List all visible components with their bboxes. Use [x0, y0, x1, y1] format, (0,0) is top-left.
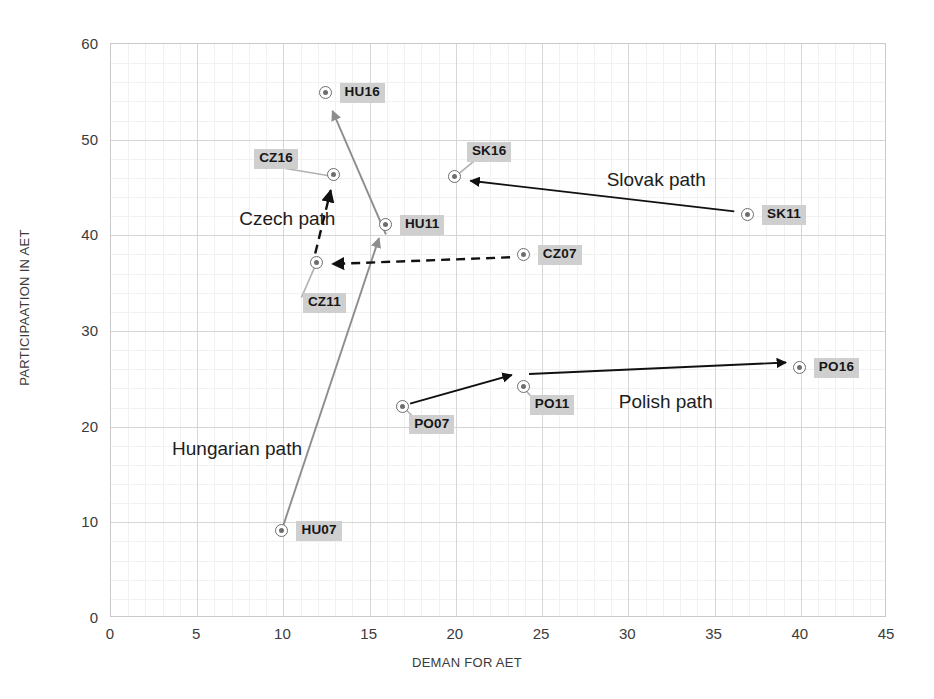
gridline-minor-vertical	[404, 44, 405, 616]
gridline-minor-vertical	[249, 44, 250, 616]
data-point-label-po07: PO07	[409, 415, 454, 435]
plot-area	[110, 43, 886, 617]
gridline-minor-horizontal	[111, 312, 885, 313]
gridline-minor-vertical	[232, 44, 233, 616]
gridline-minor-vertical	[732, 44, 733, 616]
annotation-polish-path: Polish path	[619, 391, 713, 413]
gridline-minor-horizontal	[111, 197, 885, 198]
gridline-vertical	[715, 44, 716, 616]
x-axis-tick-label: 10	[274, 625, 291, 642]
gridline-minor-vertical	[784, 44, 785, 616]
x-axis-tick-label: 15	[360, 625, 377, 642]
data-point-marker-po07[interactable]	[396, 400, 409, 413]
gridline-minor-vertical	[508, 44, 509, 616]
data-point-label-hu07: HU07	[296, 521, 341, 541]
data-point-marker-po16[interactable]	[793, 361, 806, 374]
gridline-minor-vertical	[749, 44, 750, 616]
gridline-minor-horizontal	[111, 369, 885, 370]
gridline-vertical	[370, 44, 371, 616]
gridline-minor-horizontal	[111, 465, 885, 466]
gridline-minor-vertical	[559, 44, 560, 616]
gridline-vertical	[197, 44, 198, 616]
x-axis-tick-label: 40	[791, 625, 808, 642]
gridline-minor-vertical	[611, 44, 612, 616]
x-axis-tick-label: 5	[192, 625, 200, 642]
data-point-label-cz16: CZ16	[254, 149, 298, 169]
gridline-minor-horizontal	[111, 178, 885, 179]
x-axis-tick-label: 25	[533, 625, 550, 642]
gridline-minor-vertical	[352, 44, 353, 616]
gridline-minor-horizontal	[111, 503, 885, 504]
gridline-minor-horizontal	[111, 63, 885, 64]
y-axis-tick-label: 30	[0, 322, 98, 339]
data-point-label-hu16: HU16	[340, 83, 385, 103]
gridline-minor-horizontal	[111, 350, 885, 351]
gridline-vertical	[628, 44, 629, 616]
gridline-horizontal	[111, 140, 885, 141]
gridline-vertical	[801, 44, 802, 616]
gridline-minor-horizontal	[111, 541, 885, 542]
gridline-minor-vertical	[525, 44, 526, 616]
x-axis-tick-label: 0	[106, 625, 114, 642]
gridline-minor-horizontal	[111, 599, 885, 600]
x-axis-tick-label: 20	[447, 625, 464, 642]
gridline-minor-vertical	[766, 44, 767, 616]
gridline-minor-vertical	[663, 44, 664, 616]
data-point-marker-hu16[interactable]	[319, 86, 332, 99]
annotation-czech-path: Czech path	[239, 208, 335, 230]
gridline-minor-vertical	[214, 44, 215, 616]
data-point-marker-cz11[interactable]	[310, 256, 323, 269]
data-point-label-cz07: CZ07	[538, 245, 582, 265]
gridline-minor-vertical	[594, 44, 595, 616]
gridline-horizontal	[111, 235, 885, 236]
y-axis-tick-label: 10	[0, 513, 98, 530]
y-axis-tick-label: 50	[0, 130, 98, 147]
y-axis-title: PARTICIPAATION IN AET	[17, 188, 32, 428]
gridline-minor-vertical	[835, 44, 836, 616]
y-axis-tick-label: 40	[0, 226, 98, 243]
gridline-minor-horizontal	[111, 82, 885, 83]
y-axis-tick-label: 20	[0, 417, 98, 434]
gridline-minor-horizontal	[111, 388, 885, 389]
gridline-minor-vertical	[266, 44, 267, 616]
gridline-minor-vertical	[577, 44, 578, 616]
gridline-vertical	[542, 44, 543, 616]
gridline-minor-vertical	[680, 44, 681, 616]
gridline-minor-vertical	[473, 44, 474, 616]
chart-canvas: 0510152025303540450102030405060HU07HU11H…	[0, 0, 934, 699]
gridline-minor-vertical	[421, 44, 422, 616]
data-point-label-hu11: HU11	[400, 215, 445, 235]
gridline-vertical	[456, 44, 457, 616]
data-point-label-sk11: SK11	[762, 205, 806, 225]
gridline-minor-vertical	[180, 44, 181, 616]
data-point-marker-sk16[interactable]	[448, 170, 461, 183]
gridline-minor-vertical	[387, 44, 388, 616]
gridline-minor-vertical	[853, 44, 854, 616]
gridline-minor-horizontal	[111, 101, 885, 102]
x-axis-tick-label: 35	[705, 625, 722, 642]
gridline-horizontal	[111, 331, 885, 332]
annotation-slovak-path: Slovak path	[607, 169, 706, 191]
gridline-minor-vertical	[646, 44, 647, 616]
gridline-minor-vertical	[163, 44, 164, 616]
x-axis-tick-label: 45	[878, 625, 895, 642]
gridline-minor-vertical	[145, 44, 146, 616]
gridline-minor-vertical	[697, 44, 698, 616]
y-axis-tick-label: 60	[0, 35, 98, 52]
gridline-minor-horizontal	[111, 484, 885, 485]
x-axis-tick-label: 30	[619, 625, 636, 642]
y-axis-tick-label: 0	[0, 609, 98, 626]
data-point-label-po11: PO11	[530, 395, 575, 415]
gridline-minor-horizontal	[111, 408, 885, 409]
data-point-label-sk16: SK16	[467, 142, 512, 162]
gridline-minor-vertical	[490, 44, 491, 616]
gridline-minor-vertical	[818, 44, 819, 616]
gridline-minor-horizontal	[111, 580, 885, 581]
gridline-horizontal	[111, 427, 885, 428]
data-point-marker-hu11[interactable]	[379, 218, 392, 231]
gridline-minor-vertical	[870, 44, 871, 616]
gridline-minor-horizontal	[111, 561, 885, 562]
gridline-minor-horizontal	[111, 274, 885, 275]
gridline-minor-horizontal	[111, 293, 885, 294]
gridline-minor-vertical	[128, 44, 129, 616]
